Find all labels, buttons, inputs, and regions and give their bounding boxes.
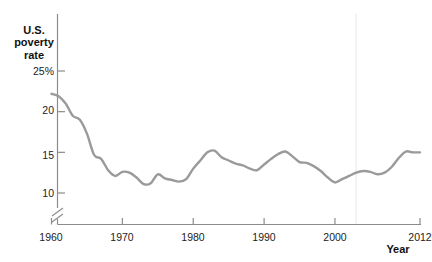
plot-canvas <box>0 0 432 262</box>
poverty-rate-line <box>52 94 421 185</box>
poverty-rate-figure: U.S. poverty rate 25% 20 15 10 1960 1970… <box>0 0 432 262</box>
x-tick-marks <box>52 218 421 225</box>
axis-lines <box>58 14 422 225</box>
y-tick-marks <box>58 71 66 193</box>
